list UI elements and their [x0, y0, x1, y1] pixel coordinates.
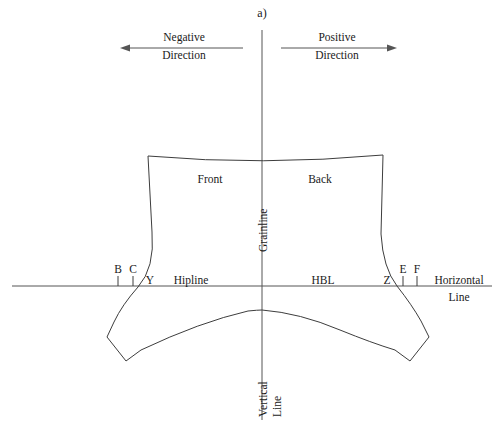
- pattern-diagram-figure: a) Negative Direction Positive Direction…: [0, 0, 501, 425]
- left-cuff: [107, 322, 141, 361]
- grainline-label: Grainline: [257, 209, 269, 252]
- hbl-label: HBL: [312, 274, 335, 288]
- negative-direction-label-line2: Direction: [162, 49, 205, 63]
- waist-edge: [148, 155, 383, 161]
- tick-marks-ef: [403, 276, 417, 286]
- point-label-b: B: [114, 263, 122, 277]
- right-cuff: [395, 321, 429, 361]
- right-side-seam: [381, 155, 421, 321]
- point-label-e: E: [399, 263, 406, 277]
- point-label-y: Y: [146, 274, 154, 288]
- hipline-label: Hipline: [174, 274, 209, 288]
- negative-direction-label-line1: Negative: [163, 31, 205, 45]
- horizontal-line-label-line2: Line: [448, 291, 469, 305]
- garment-outline: [107, 155, 429, 361]
- vertical-line-label-line2: Line: [271, 396, 283, 417]
- horizontal-line-label-line1: Horizontal: [434, 274, 483, 288]
- left-side-seam: [114, 156, 152, 322]
- inner-hem-left: [141, 310, 262, 350]
- front-panel-label: Front: [198, 173, 223, 187]
- point-label-z: Z: [383, 274, 390, 288]
- point-label-c: C: [129, 263, 137, 277]
- figure-title: a): [257, 6, 266, 20]
- positive-direction-label-line1: Positive: [318, 31, 355, 45]
- vertical-line-label-line1: Vertical: [257, 381, 269, 417]
- inner-hem-right: [262, 310, 395, 350]
- positive-direction-label-line2: Direction: [315, 49, 358, 63]
- point-label-f: F: [414, 263, 420, 277]
- tick-marks-bc: [118, 276, 133, 286]
- diagram-linework: [0, 0, 501, 425]
- back-panel-label: Back: [308, 173, 332, 187]
